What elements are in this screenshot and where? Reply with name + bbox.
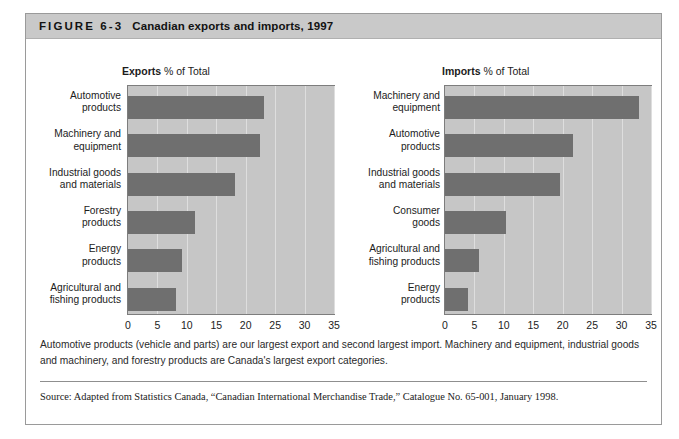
gridline — [334, 86, 335, 314]
bar-row — [445, 165, 651, 203]
bar-row — [445, 203, 651, 241]
x-tick-label: 5 — [155, 319, 161, 331]
category-label: Agricultural and fishing products — [290, 243, 440, 268]
x-tick-label: 35 — [645, 319, 657, 331]
chart-imports-ticks: 05101520253035 — [444, 319, 652, 333]
bar — [128, 173, 235, 196]
bar — [128, 134, 260, 157]
figure-header: FIGURE 6-3 Canadian exports and imports,… — [26, 14, 661, 39]
chart-imports: Imports % of Total 05101520253035 Machin… — [346, 39, 662, 335]
bar — [128, 249, 182, 272]
chart-exports-plot — [127, 85, 335, 315]
bar — [445, 173, 560, 196]
x-tick-label: 10 — [181, 319, 193, 331]
category-label: Automotive products — [0, 90, 121, 115]
chart-exports-title-rest: % of Total — [161, 65, 210, 77]
gridline — [651, 86, 652, 314]
bar — [445, 288, 468, 311]
chart-imports-title-rest: % of Total — [481, 65, 530, 77]
category-label: Energy products — [0, 243, 121, 268]
chart-exports-title: Exports % of Total — [122, 65, 210, 77]
category-label: Machinery and equipment — [0, 128, 121, 153]
category-label: Consumer goods — [290, 205, 440, 230]
bar-row — [445, 88, 651, 126]
bar-row — [445, 280, 651, 318]
figure-title: Canadian exports and imports, 1997 — [132, 20, 333, 32]
figure-frame: FIGURE 6-3 Canadian exports and imports,… — [25, 13, 662, 425]
category-label: Energy products — [290, 282, 440, 307]
x-tick-label: 20 — [240, 319, 252, 331]
bar — [445, 249, 479, 272]
bar-row — [445, 126, 651, 164]
x-tick-label: 30 — [299, 319, 311, 331]
caption-area: Automotive products (vehicle and parts) … — [26, 335, 661, 424]
x-tick-label: 10 — [498, 319, 510, 331]
x-tick-label: 0 — [125, 319, 131, 331]
category-label: Machinery and equipment — [290, 90, 440, 115]
x-tick-label: 15 — [210, 319, 222, 331]
category-label: Automotive products — [290, 128, 440, 153]
chart-exports-ticks: 05101520253035 — [127, 319, 335, 333]
figure-number-label: FIGURE 6-3 — [39, 20, 123, 32]
x-tick-label: 25 — [586, 319, 598, 331]
bar-row — [445, 241, 651, 279]
chart-imports-title: Imports % of Total — [442, 65, 529, 77]
x-tick-label: 0 — [442, 319, 448, 331]
bar — [128, 211, 195, 234]
chart-imports-title-bold: Imports — [442, 65, 481, 77]
charts-area: Exports % of Total 05101520253035 Automo… — [26, 39, 661, 335]
category-label: Agricultural and fishing products — [0, 282, 121, 307]
figure-caption: Automotive products (vehicle and parts) … — [40, 335, 647, 368]
bar — [445, 211, 506, 234]
figure-source: Source: Adapted from Statistics Canada, … — [40, 382, 647, 402]
chart-exports-title-bold: Exports — [122, 65, 161, 77]
x-tick-label: 15 — [527, 319, 539, 331]
chart-imports-plot — [444, 85, 652, 315]
x-tick-label: 5 — [472, 319, 478, 331]
category-label: Industrial goods and materials — [0, 167, 121, 192]
category-label: Industrial goods and materials — [290, 167, 440, 192]
x-tick-label: 20 — [557, 319, 569, 331]
x-tick-label: 35 — [328, 319, 340, 331]
bar — [128, 96, 264, 119]
x-tick-label: 25 — [269, 319, 281, 331]
bar — [445, 96, 639, 119]
bar — [445, 134, 573, 157]
x-tick-label: 30 — [616, 319, 628, 331]
category-label: Forestry products — [0, 205, 121, 230]
bar — [128, 288, 176, 311]
